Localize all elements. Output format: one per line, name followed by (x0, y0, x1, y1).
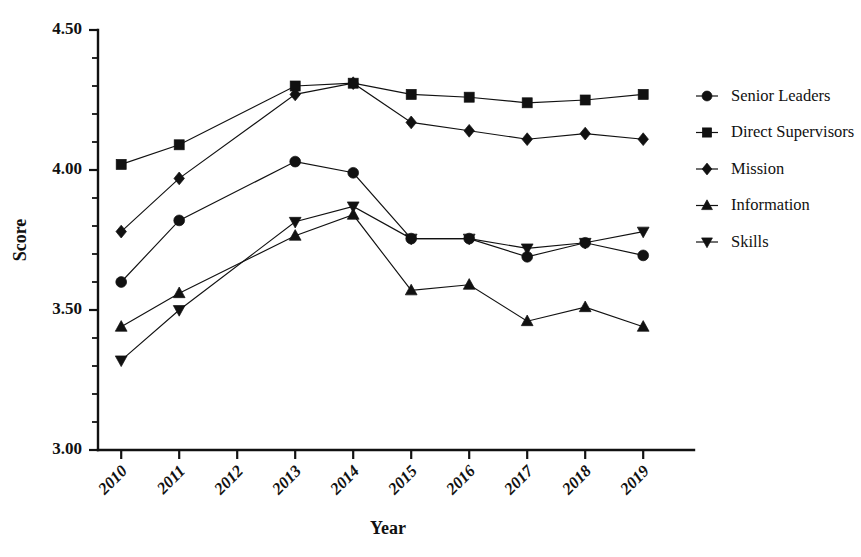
x-axis-title: Year (370, 518, 406, 538)
y-tick-label: 3.00 (52, 439, 82, 458)
x-axis: 2010201120122013201420152016201720182019 (94, 450, 694, 499)
x-tick-label: 2019 (616, 461, 653, 498)
series-information (115, 209, 649, 332)
data-point-square (580, 95, 590, 105)
data-point-circle (290, 156, 301, 167)
data-point-triangle-up (173, 287, 185, 298)
data-point-triangle-up (115, 321, 127, 332)
legend-marker-circle (702, 91, 712, 101)
line-chart-figure: 3.003.504.004.50 20102011201220132014201… (0, 0, 861, 557)
data-point-diamond (580, 127, 590, 140)
y-axis: 3.003.504.004.50 (52, 19, 98, 458)
legend-label: Skills (731, 232, 769, 251)
data-point-triangle-up (579, 301, 591, 312)
data-point-circle (174, 215, 185, 226)
series-direct-supervisors (116, 78, 648, 169)
legend-marker-square (702, 128, 711, 137)
series-layer (115, 77, 649, 367)
data-point-diamond (522, 133, 532, 146)
legend-item-senior-leaders[interactable]: Senior Leaders (696, 86, 830, 105)
data-point-square (522, 98, 532, 108)
data-point-diamond (464, 124, 474, 137)
x-tick-label: 2010 (94, 461, 131, 498)
data-point-triangle-down (289, 217, 301, 228)
data-point-square (174, 140, 184, 150)
data-point-diamond (406, 116, 416, 129)
data-point-square (116, 159, 126, 169)
legend-label: Information (731, 195, 810, 214)
data-point-diamond (174, 172, 184, 185)
legend-item-skills[interactable]: Skills (696, 232, 769, 251)
y-axis-title: Score (10, 219, 30, 262)
series-line (121, 83, 643, 231)
legend-item-information[interactable]: Information (696, 195, 810, 214)
x-tick-label: 2017 (500, 461, 538, 499)
series-line (121, 83, 643, 164)
data-point-square (638, 89, 648, 99)
series-senior-leaders (116, 156, 649, 287)
y-tick-label: 3.50 (52, 299, 82, 318)
x-tick-label: 2011 (152, 461, 189, 498)
series-line (121, 162, 643, 282)
data-point-triangle-up (463, 279, 475, 290)
data-point-diamond (638, 133, 648, 146)
legend-marker-triangle-up (702, 200, 713, 210)
legend-marker-triangle-down (702, 238, 713, 248)
legend-item-mission[interactable]: Mission (696, 159, 784, 178)
data-point-diamond (116, 225, 126, 238)
data-point-circle (638, 250, 649, 261)
x-tick-label: 2018 (558, 461, 595, 498)
series-line (121, 215, 643, 327)
x-tick-label: 2015 (384, 461, 421, 498)
legend-label: Mission (731, 159, 784, 178)
series-skills (115, 202, 649, 367)
data-point-circle (348, 167, 359, 178)
data-point-triangle-down (173, 306, 185, 317)
y-tick-label: 4.00 (52, 159, 82, 178)
chart-legend: Senior LeadersDirect SupervisorsMissionI… (696, 86, 854, 251)
y-tick-label: 4.50 (52, 19, 82, 38)
legend-label: Senior Leaders (731, 86, 830, 105)
legend-marker-diamond (702, 163, 712, 175)
legend-label: Direct Supervisors (731, 122, 854, 141)
data-point-triangle-up (289, 230, 301, 241)
legend-item-direct-supervisors[interactable]: Direct Supervisors (696, 122, 854, 141)
x-tick-label: 2014 (326, 461, 363, 498)
data-point-square (464, 92, 474, 102)
x-tick-label: 2016 (442, 461, 480, 499)
x-tick-label: 2013 (268, 461, 305, 498)
chart-canvas: 3.003.504.004.50 20102011201220132014201… (0, 0, 861, 557)
x-tick-label: 2012 (210, 461, 247, 498)
data-point-square (406, 89, 416, 99)
data-point-triangle-down (115, 356, 127, 367)
data-point-circle (116, 277, 127, 288)
